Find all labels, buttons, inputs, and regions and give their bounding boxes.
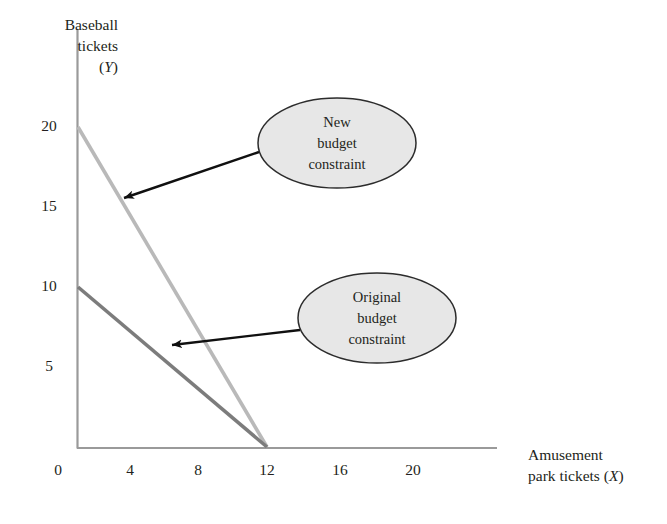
original-budget-constraint-callout-ellipse (298, 273, 456, 363)
x-tick-label-16: 16 (325, 462, 355, 478)
y-axis-variable: Y (104, 58, 113, 75)
y-tick-label-5: 5 (34, 358, 64, 374)
original-budget-constraint-arrow (172, 330, 300, 345)
x-axis-variable: X (609, 467, 618, 484)
y-axis-title-line-3: (Y) (14, 56, 118, 77)
y-axis-title-line-1: Baseball (14, 14, 118, 35)
new-budget-constraint-line (78, 127, 267, 447)
new-budget-constraint-callout-ellipse (258, 98, 416, 188)
y-tick-label-10: 10 (34, 278, 64, 294)
budget-constraint-chart: Baseball tickets (Y) Amusement park tick… (0, 0, 667, 524)
y-axis-title-line-2: tickets (14, 35, 118, 56)
new-budget-constraint-arrow (124, 152, 259, 198)
y-axis-title: Baseball tickets (Y) (14, 14, 118, 77)
x-axis-title-line-1: Amusement (528, 444, 667, 465)
x-tick-label-12: 12 (252, 462, 282, 478)
y-axis-title-paren-close: ) (113, 58, 118, 75)
original-budget-constraint-line (78, 287, 267, 447)
y-tick-label-15: 15 (34, 198, 64, 214)
x-axis-title-prefix: park tickets ( (528, 467, 609, 484)
x-axis-title: Amusement park tickets (X) (528, 444, 667, 486)
x-axis-title-line-2: park tickets (X) (528, 465, 667, 486)
x-tick-label-20: 20 (398, 462, 428, 478)
x-tick-label-0: 0 (43, 462, 73, 478)
y-tick-label-20: 20 (34, 118, 64, 134)
x-axis-title-suffix: ) (618, 467, 623, 484)
x-tick-label-8: 8 (183, 462, 213, 478)
x-tick-label-4: 4 (115, 462, 145, 478)
